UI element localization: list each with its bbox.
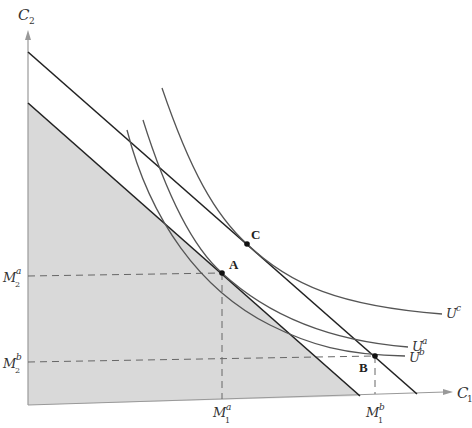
y-axis-label: C 2 — [18, 6, 35, 26]
m1b-tick-label: M b 1 — [365, 402, 385, 425]
svg-text:1: 1 — [378, 416, 383, 425]
point-a-label: A — [229, 257, 239, 272]
m2a-tick-label: M a 2 — [2, 266, 21, 289]
point-c-marker — [244, 241, 250, 247]
x-axis-arrow-icon — [443, 389, 453, 395]
svg-text:1: 1 — [225, 416, 230, 425]
svg-text:b: b — [419, 347, 425, 357]
svg-text:a: a — [16, 266, 21, 276]
m2b-tick-label: M b 2 — [2, 352, 22, 375]
svg-text:a: a — [226, 402, 231, 412]
point-b-marker — [372, 353, 378, 359]
uc-label: U c — [446, 303, 461, 321]
svg-text:1: 1 — [467, 394, 472, 404]
m1a-tick-label: M a 1 — [212, 402, 231, 425]
y-axis-arrow-icon — [25, 30, 31, 40]
svg-text:2: 2 — [29, 16, 35, 26]
indifference-curve-diagram: A B C C 2 C 1 U c U a U b M a 2 M b 2 M … — [0, 0, 472, 428]
svg-text:c: c — [456, 303, 461, 313]
point-b-label: B — [359, 360, 368, 375]
point-a-marker — [219, 270, 225, 276]
svg-text:2: 2 — [15, 280, 20, 289]
svg-text:b: b — [379, 402, 385, 412]
svg-text:a: a — [422, 336, 427, 346]
shaded-budget-region — [28, 103, 360, 405]
point-c-label: C — [251, 227, 260, 242]
x-axis-label: C 1 — [457, 384, 472, 404]
ub-label: U b — [409, 347, 425, 365]
svg-text:2: 2 — [15, 366, 20, 375]
svg-text:b: b — [16, 352, 22, 362]
